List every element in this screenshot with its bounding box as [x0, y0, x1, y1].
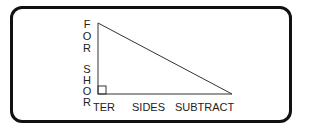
label-letter-o: O — [81, 31, 93, 42]
bottom-label-sides: SIDES — [132, 101, 165, 113]
right-angle-marker — [98, 86, 106, 94]
bottom-label-subtract: SUBTRACT — [175, 101, 234, 113]
label-letter-r2: R — [81, 97, 93, 108]
bottom-label-ter: TER — [93, 101, 115, 113]
label-letter-f: F — [81, 19, 93, 30]
label-letter-r: R — [81, 43, 93, 54]
